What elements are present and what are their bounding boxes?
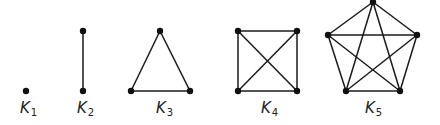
graph-label-subscript: 5 [376,107,382,118]
graph-k2: K2 [77,28,94,118]
graph-vertex [294,28,300,34]
graph-k3: K3 [128,28,193,118]
graph-k5: K5 [325,0,420,118]
graph-edge [160,31,190,91]
graph-vertex [23,88,29,94]
graph-k4: K4 [235,28,300,118]
graph-vertex [187,88,193,94]
graph-label: K3 [156,99,173,118]
graph-vertex [294,88,300,94]
graph-label: K4 [261,99,278,118]
graph-label-subscript: 3 [167,107,173,118]
graph-vertex [414,32,420,38]
graph-edge [400,35,417,91]
graph-edge [328,35,400,91]
graph-label-subscript: 2 [88,107,94,118]
graph-label-letter: K [365,99,376,117]
graph-edge [328,2,373,35]
graph-edge [328,35,346,91]
graph-vertex [128,88,134,94]
graph-label-letter: K [156,99,167,117]
graph-edge [346,2,373,91]
graph-label-letter: K [20,99,31,117]
graph-vertex [343,88,349,94]
graph-vertex [397,88,403,94]
graph-label-subscript: 1 [31,107,37,118]
graph-label: K2 [77,99,94,118]
graph-vertex [80,88,86,94]
graph-vertex [157,28,163,34]
graph-label: K5 [365,99,382,118]
graph-label-subscript: 4 [272,107,278,118]
graph-label: K1 [20,99,37,118]
graph-label-letter: K [261,99,272,117]
graph-label-letter: K [77,99,88,117]
graph-k1: K1 [20,88,37,118]
complete-graphs-diagram: K1 K2 K3 K4 K5 [0,0,440,125]
graph-vertex [80,28,86,34]
graph-vertex [235,28,241,34]
graph-vertex [235,88,241,94]
graph-edge [373,2,400,91]
graph-edge [346,35,417,91]
graph-vertex [325,32,331,38]
graph-edge [373,2,417,35]
graph-edge [131,31,160,91]
